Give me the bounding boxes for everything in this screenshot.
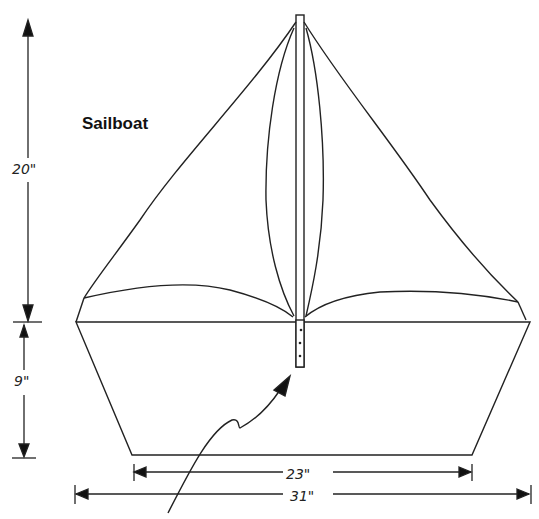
left-sail [84,22,296,298]
dimension-hull-height [12,325,36,458]
dim-label-9: 9" [14,373,29,389]
dim-label-20: 20" [12,161,36,177]
left-sail-foot [84,285,293,317]
right-sail [304,22,518,302]
dim-label-31: 31" [290,488,314,504]
right-sail-foot [305,291,518,317]
center-sail-right [306,28,323,316]
mast [296,15,304,367]
sailboat-diagram: 20" 9" 23" 31" [0,0,539,519]
center-sail-left [266,28,294,316]
dim-label-23: 23" [286,466,310,482]
pointer-arrow [168,376,290,513]
